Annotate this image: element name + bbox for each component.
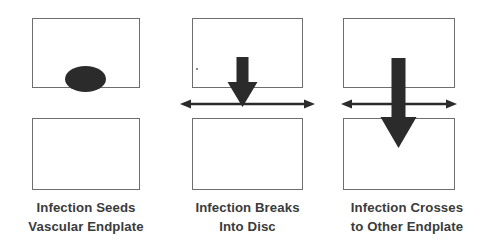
caption-line-2: Vascular Endplate: [10, 217, 162, 236]
disc-space-double-arrow: [160, 0, 325, 200]
caption-line-2: Into Disc: [165, 217, 330, 236]
caption-line-1: Infection Crosses: [325, 198, 489, 217]
panel-infection-seeds: Infection Seeds Vascular Endplate: [0, 0, 160, 251]
caption-line-1: Infection Breaks: [165, 198, 330, 217]
panel-caption: Infection Seeds Vascular Endplate: [10, 198, 162, 236]
panel-infection-crosses: Infection Crosses to Other Endplate: [325, 0, 489, 251]
panel-caption: Infection Breaks Into Disc: [165, 198, 330, 236]
caption-line-1: Infection Seeds: [10, 198, 162, 217]
infection-down-arrow-long: [325, 0, 489, 200]
endplate-lower-box: [32, 118, 140, 190]
diagram-canvas: Infection Seeds Vascular Endplate Infect…: [0, 0, 489, 251]
panel-caption: Infection Crosses to Other Endplate: [325, 198, 489, 236]
panel-infection-breaks-into-disc: Infection Breaks Into Disc: [160, 0, 325, 251]
caption-line-2: to Other Endplate: [325, 217, 489, 236]
infection-lesion: [65, 66, 106, 92]
